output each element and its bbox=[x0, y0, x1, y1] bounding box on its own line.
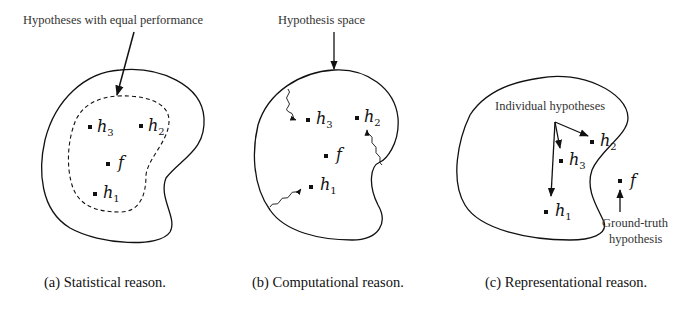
arrow-to-h2 bbox=[555, 122, 588, 136]
annotation-hypothesis-space: Hypothesis space bbox=[278, 13, 366, 27]
point-h3-marker bbox=[88, 125, 92, 129]
point-h3-label: h3 bbox=[316, 109, 333, 130]
panel-computational: Hypothesis space h3 h2 f h1 (b) Computat… bbox=[252, 13, 404, 291]
caption-a: (a) Statistical reason. bbox=[44, 274, 166, 291]
point-f-marker bbox=[106, 162, 110, 166]
point-h3-marker bbox=[306, 118, 310, 122]
point-h1-label: h1 bbox=[103, 183, 120, 204]
point-h2-label: h2 bbox=[148, 116, 165, 137]
point-h2-marker bbox=[139, 124, 143, 128]
annotation-equal-performance: Hypotheses with equal performance bbox=[23, 13, 204, 27]
point-f-label: f bbox=[335, 145, 345, 164]
panel-representational: Individual hypotheses h2 h3 h1 f Ground-… bbox=[457, 76, 669, 291]
point-f-label: f bbox=[629, 171, 639, 190]
point-h1-label: h1 bbox=[320, 175, 337, 196]
annotation-ground-truth-line1: Ground-truth bbox=[602, 216, 669, 230]
optimization-path-h3 bbox=[287, 89, 297, 120]
annotation-individual-hypotheses: Individual hypotheses bbox=[495, 99, 605, 113]
point-h1-marker bbox=[309, 185, 313, 189]
point-h2-label: h2 bbox=[364, 107, 381, 128]
point-h2-marker bbox=[590, 140, 594, 144]
point-f-marker bbox=[324, 154, 328, 158]
annotation-ground-truth-line2: hypothesis bbox=[609, 232, 663, 246]
point-h3-marker bbox=[559, 159, 563, 163]
panel-statistical: Hypotheses with equal performance h3 h2 … bbox=[23, 13, 204, 291]
optimization-path-h1 bbox=[270, 189, 301, 207]
caption-b: (b) Computational reason. bbox=[252, 274, 404, 291]
point-h3-label: h3 bbox=[97, 117, 114, 138]
optimization-path-h2 bbox=[367, 130, 382, 165]
arrow-equal-performance bbox=[117, 32, 134, 95]
point-f-marker bbox=[618, 179, 622, 183]
point-h2-label: h2 bbox=[600, 131, 617, 152]
point-h1-marker bbox=[544, 210, 548, 214]
arrow-to-h1 bbox=[551, 122, 555, 196]
point-h2-marker bbox=[355, 116, 359, 120]
point-h3-label: h3 bbox=[569, 150, 586, 171]
arrow-to-h3 bbox=[555, 122, 560, 148]
point-h1-marker bbox=[93, 192, 97, 196]
point-f-label: f bbox=[117, 153, 127, 172]
point-h1-label: h1 bbox=[555, 201, 572, 222]
caption-c: (c) Representational reason. bbox=[485, 274, 647, 291]
ensemble-reasons-figure: Hypotheses with equal performance h3 h2 … bbox=[0, 0, 697, 313]
